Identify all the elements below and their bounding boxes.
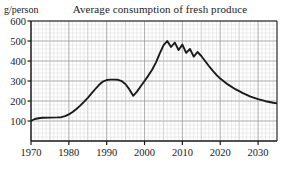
x-tick-label: 2010 [172,147,193,158]
y-tick-label: 300 [10,76,26,87]
x-tick-label: 1980 [58,147,79,158]
y-tick-label: 200 [10,96,26,107]
y-tick-label: 600 [10,16,26,27]
chart-container: g/person Average consumption of fresh pr… [0,0,282,174]
x-tick-label: 2020 [210,147,231,158]
y-tick-label: 500 [10,36,26,47]
plot-area: 1002003004005006001970198019902000201020… [0,0,282,174]
y-tick-label: 400 [10,56,26,67]
y-tick-label: 100 [10,116,26,127]
x-tick-label: 1990 [96,147,117,158]
x-tick-label: 2000 [134,147,155,158]
x-tick-label: 1970 [21,147,42,158]
x-tick-label: 2030 [248,147,269,158]
